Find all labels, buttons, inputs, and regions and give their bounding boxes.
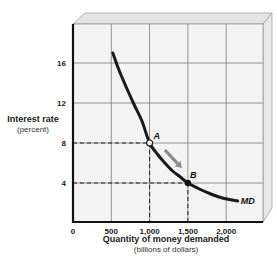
plot-area [73, 24, 263, 222]
y-tick-label: 12 [57, 99, 66, 108]
y-tick-label: 8 [62, 139, 67, 148]
x-axis-unit: (billions of dollars) [96, 245, 236, 254]
point-a-marker [147, 140, 153, 146]
point-a-label: A [153, 131, 161, 141]
y-tick-label: 16 [57, 59, 66, 68]
x-axis-label: Quantity of money demanded [96, 234, 236, 244]
point-b-marker [185, 180, 191, 186]
point-b-label: B [190, 170, 197, 180]
x-axis-title: Quantity of money demanded (billions of … [96, 234, 236, 254]
frame-top-bevel [73, 13, 272, 24]
y-axis-title: Interest rate (percent) [2, 114, 64, 134]
y-axis-label: Interest rate [2, 114, 64, 124]
frame-right-side [263, 13, 272, 222]
y-tick-label: 4 [62, 179, 67, 188]
x-tick-label: 0 [71, 227, 76, 236]
md-curve-label: MD [241, 196, 255, 206]
y-axis-unit: (percent) [2, 125, 64, 134]
